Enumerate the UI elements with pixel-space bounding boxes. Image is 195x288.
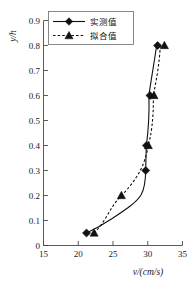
y-tick-labels: 0 0.1 0.2 0.3 0.4 0.5 0.6 0.7 0.8 0.9 <box>29 16 41 251</box>
y-tick-label: 0.1 <box>29 216 40 226</box>
x-tick-marks <box>44 241 183 246</box>
chart-figure: 0 0.1 0.2 0.3 0.4 0.5 0.6 0.7 0.8 0.9 15… <box>0 0 195 288</box>
diamond-marker <box>142 166 150 174</box>
x-tick-label: 35 <box>178 249 188 259</box>
y-tick-label: 0.2 <box>29 191 40 201</box>
legend-label-fitted: 拟合值 <box>90 31 117 41</box>
y-tick-label: 0.9 <box>29 16 41 26</box>
measured-curve <box>87 46 157 234</box>
y-tick-label: 0.8 <box>29 41 41 51</box>
triangle-marker <box>90 229 98 236</box>
x-tick-label: 20 <box>74 249 84 259</box>
axis-lines <box>44 21 183 246</box>
x-tick-labels: 15 20 25 30 35 <box>39 249 188 259</box>
y-tick-label: 0.3 <box>29 166 41 176</box>
y-tick-label: 0.5 <box>29 116 41 126</box>
y-tick-label: 0.7 <box>29 66 41 76</box>
y-tick-marks <box>44 21 49 246</box>
x-tick-label: 30 <box>143 249 153 259</box>
y-tick-label: 0.6 <box>29 91 41 101</box>
velocity-profile-chart: 0 0.1 0.2 0.3 0.4 0.5 0.6 0.7 0.8 0.9 15… <box>0 0 195 288</box>
chart-legend: 实测值 拟合值 <box>49 12 134 45</box>
legend-label-measured: 实测值 <box>90 17 117 27</box>
diamond-marker <box>82 229 90 237</box>
y-tick-label: 0.4 <box>29 141 41 151</box>
fitted-curve <box>94 46 160 234</box>
x-tick-label: 25 <box>109 249 119 259</box>
y-axis-title: y/h <box>8 30 18 43</box>
x-axis-title: v/(cm/s) <box>133 267 164 278</box>
x-tick-label: 15 <box>39 249 49 259</box>
